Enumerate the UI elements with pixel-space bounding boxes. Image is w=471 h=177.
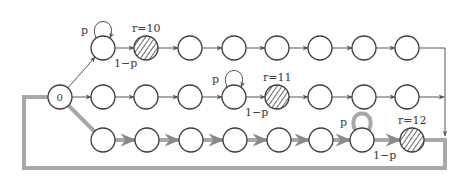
- markov-chain-diagram: p1−pr=10p1−pr=11p1−pr=120: [0, 0, 471, 177]
- loop-prob-label-row-2: p: [212, 73, 219, 86]
- state-row-3-6: [350, 128, 374, 152]
- nodes: [48, 36, 424, 152]
- state-row-2-5: [308, 85, 332, 109]
- state-row-3-1: [135, 128, 159, 152]
- state-row-1-5: [308, 36, 332, 60]
- reward-label-row-2: r=11: [263, 71, 291, 84]
- start-node-label: 0: [57, 92, 63, 103]
- loop-prob-label-row-1: p: [81, 24, 88, 37]
- state-row-3-5: [309, 128, 333, 152]
- state-row-2-6: [352, 85, 376, 109]
- state-row-1-2: [178, 36, 202, 60]
- state-row-2-2: [178, 85, 202, 109]
- transition-prob-label-row-3: 1−p: [373, 149, 396, 162]
- state-row-3-3: [223, 128, 247, 152]
- state-row-2-1: [134, 85, 158, 109]
- loop-prob-label-row-3: p: [340, 116, 347, 129]
- state-row-2-7: [395, 85, 419, 109]
- state-row-1-0: [91, 36, 115, 60]
- state-row-1-3: [222, 36, 246, 60]
- reward-label-row-1: r=10: [132, 22, 160, 35]
- state-row-2-0: [91, 85, 115, 109]
- state-row-3-0: [91, 128, 115, 152]
- state-row-1-7: [395, 36, 419, 60]
- state-row-3-4: [267, 128, 291, 152]
- state-row-2-3: [222, 85, 246, 109]
- state-row-1-4: [265, 36, 289, 60]
- state-row-1-6: [352, 36, 376, 60]
- state-row-3-2: [179, 128, 203, 152]
- reward-state-row-3: [400, 128, 424, 152]
- reward-label-row-3: r=12: [398, 114, 426, 127]
- reward-state-row-1: [134, 36, 158, 60]
- edge-start-to-row-1: [68, 57, 95, 88]
- edge-start-to-row-3: [68, 105, 94, 131]
- transition-prob-label-row-1: 1−p: [114, 57, 137, 70]
- reward-state-row-2: [265, 85, 289, 109]
- transition-prob-label-row-2: 1−p: [245, 106, 268, 119]
